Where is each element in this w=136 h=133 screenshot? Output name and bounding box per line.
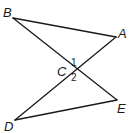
segment-DE [15, 100, 117, 120]
point-label-E: E [117, 101, 126, 116]
segment-BE [13, 18, 117, 100]
point-label-D: D [4, 119, 13, 133]
point-label-C: C [57, 64, 67, 79]
angle-label-2: 2 [71, 72, 77, 83]
angle-label-1: 1 [71, 57, 77, 68]
point-label-B: B [3, 5, 12, 20]
segment-BA [13, 18, 116, 37]
point-label-A: A [117, 26, 127, 41]
geometry-diagram: B A C E D 1 2 [0, 0, 136, 133]
